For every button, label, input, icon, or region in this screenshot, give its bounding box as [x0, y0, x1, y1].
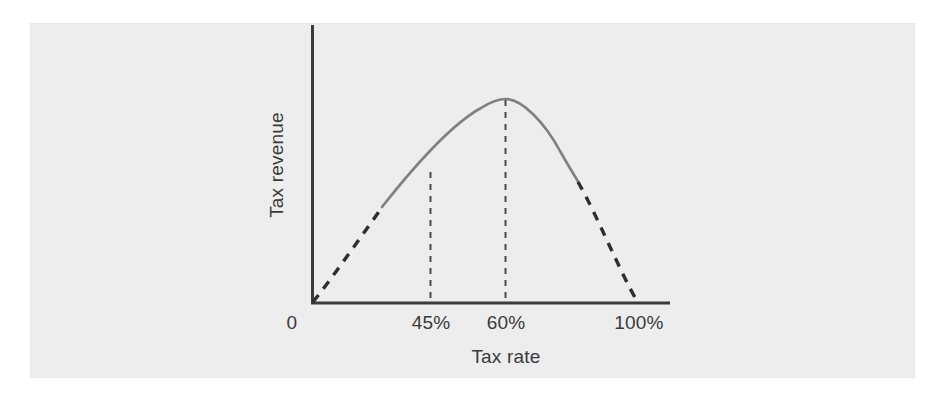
curve-segment-observed-solid: [382, 99, 579, 207]
laffer-curve-plot: [0, 0, 947, 403]
x-tick-label-100: 100%: [614, 313, 663, 332]
curve-segment-lower-dashed: [313, 206, 383, 302]
x-tick-label-45: 45%: [412, 313, 451, 332]
x-tick-label-0: 0: [287, 313, 298, 332]
figure-root: 0 45% 60% 100% Tax rate Tax revenue: [0, 0, 947, 403]
x-tick-label-60: 60%: [487, 313, 526, 332]
y-axis-title: Tax revenue: [267, 112, 286, 218]
curve-segment-upper-dashed: [578, 182, 637, 301]
x-axis-title: Tax rate: [471, 347, 540, 366]
